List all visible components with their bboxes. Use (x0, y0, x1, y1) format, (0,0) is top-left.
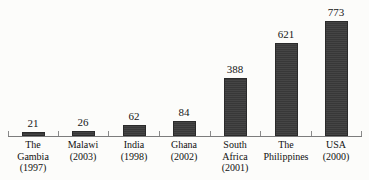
bar-group: 62 (109, 0, 159, 136)
bar-column: 26 (58, 0, 108, 136)
bar-value-label: 26 (78, 117, 89, 128)
category-label-line: USA (305, 139, 367, 151)
category-label: USA (2000) (305, 139, 367, 162)
bar-rect[interactable] (275, 43, 298, 136)
bar-rect[interactable] (72, 131, 95, 136)
bar-value-label: 621 (278, 29, 295, 40)
bar-column: 773 (311, 0, 361, 136)
bar-group: 21 (8, 0, 58, 136)
bar-column: 84 (159, 0, 209, 136)
category-label-line: (2000) (305, 151, 367, 163)
bar-group: 84 (159, 0, 209, 136)
bar-rect[interactable] (123, 125, 146, 136)
bar-value-label: 84 (179, 107, 190, 118)
bar-value-label: 773 (328, 7, 345, 18)
bar-rect[interactable] (325, 21, 348, 136)
bar-column: 21 (8, 0, 58, 136)
bar-group: 388 (210, 0, 260, 136)
bar-column: 62 (109, 0, 159, 136)
bar-group: 773 (311, 0, 361, 136)
bar-value-label: 388 (227, 64, 244, 75)
bar-group: 26 (58, 0, 108, 136)
bar-rect[interactable] (173, 121, 196, 136)
bar-rect[interactable] (224, 78, 247, 136)
bar-column: 388 (210, 0, 260, 136)
category-label-line: (1997) (2, 162, 64, 174)
x-axis-line (8, 136, 362, 137)
bar-column: 621 (261, 0, 311, 136)
axis-tick (361, 131, 362, 136)
bar-group: 621 (261, 0, 311, 136)
bar-value-label: 62 (129, 111, 140, 122)
plot-area: 21 The Gambia (1997) 26 Malawi (2003) 62 (0, 0, 369, 180)
bar-chart-figure: 21 The Gambia (1997) 26 Malawi (2003) 62 (0, 0, 369, 180)
bar-value-label: 21 (28, 118, 39, 129)
bar-rect[interactable] (22, 132, 45, 136)
category-label-line: (2001) (204, 162, 266, 174)
